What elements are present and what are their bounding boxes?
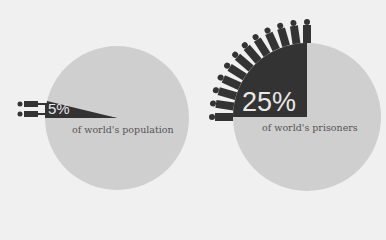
prisoners-caption: of world's prisoners — [262, 122, 358, 133]
person-icon-population — [18, 101, 49, 117]
prisoners-percent: 25% — [242, 87, 296, 118]
population-percent: 5% — [48, 100, 70, 117]
population-caption: of world's population — [72, 124, 174, 135]
